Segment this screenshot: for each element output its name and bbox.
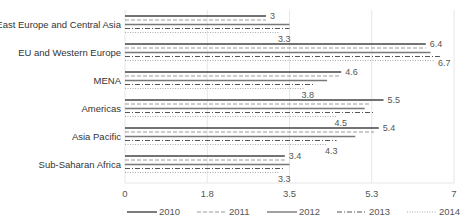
category-label: MENA [94, 75, 122, 86]
category-label: East Europe and Central Asia [0, 19, 122, 30]
legend-label: 2010 [159, 206, 180, 217]
legend-label: 2014 [439, 206, 460, 217]
value-label: 5.5 [388, 95, 401, 105]
value-label: 3.4 [289, 151, 302, 161]
category-label: EU and Western Europe [18, 47, 121, 58]
category-label: Asia Pacific [72, 131, 121, 142]
tick-label: 5.3 [365, 188, 378, 199]
legend: 20102011201220132014 [127, 206, 460, 217]
value-label: 6.4 [430, 39, 443, 49]
tick-label: 7 [451, 188, 456, 199]
value-label: 3.3 [278, 34, 291, 44]
category-label: Sub-Saharan Africa [39, 159, 122, 170]
value-label: 3.8 [302, 90, 315, 100]
line-bar-chart: East Europe and Central Asia33.3EU and W… [0, 0, 463, 222]
legend-label: 2011 [229, 206, 249, 217]
value-label: 6.7 [438, 58, 451, 68]
value-label: 3 [270, 11, 275, 21]
category-label: Americas [81, 103, 121, 114]
tick-label: 1.8 [201, 188, 214, 199]
category-axis: East Europe and Central Asia33.3EU and W… [0, 11, 450, 184]
value-label: 3.3 [278, 174, 291, 184]
tick-label: 0 [122, 188, 127, 199]
value-label: 4.6 [345, 67, 358, 77]
value-label: 4.5 [335, 118, 348, 128]
value-label: 4.3 [325, 146, 338, 156]
legend-label: 2013 [369, 206, 390, 217]
tick-label: 3.5 [283, 188, 296, 199]
legend-label: 2012 [299, 206, 320, 217]
value-label: 5.4 [383, 123, 396, 133]
value-axis: 01.83.55.37 [122, 188, 456, 199]
